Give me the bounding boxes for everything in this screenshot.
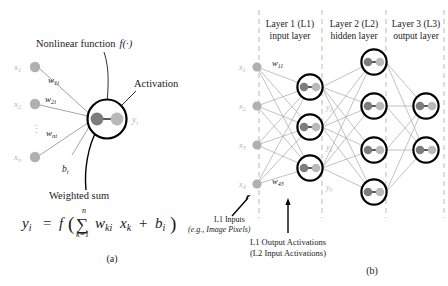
layer1-header-line1: Layer 1 (L1) — [266, 19, 315, 30]
input-label-xn: xn — [13, 152, 21, 163]
l1-neuron-1 — [297, 74, 322, 99]
input-label-x1: x1 — [13, 62, 21, 73]
input-node-b-x3 — [252, 140, 261, 149]
caption-panel-a: (a) — [106, 253, 117, 265]
input-node-x1 — [30, 62, 40, 72]
weighted-sum-leader-line — [85, 130, 97, 190]
weight-label-w11: w11 — [272, 58, 283, 69]
equation-paren-open: ( — [68, 213, 74, 235]
weighted-sum-label: Weighted sum — [49, 190, 109, 201]
l1-neuron-3 — [297, 155, 322, 180]
equation-sigma-lower: k=1 — [76, 230, 89, 239]
activation-dot — [111, 113, 124, 126]
bias-label: bi — [62, 164, 69, 175]
activation-label-y1: y1 — [325, 103, 333, 113]
panel-b: Layer 1 (L1) input layer Layer 2 (L2) hi… — [188, 10, 444, 277]
input-label-b-x3: x3 — [238, 140, 246, 151]
input-vertical-dots: ⋮ — [31, 123, 42, 135]
activation-label-y2: y2 — [325, 143, 333, 153]
input-layer-nodes — [252, 62, 261, 188]
l2-neuron-4 — [361, 179, 386, 204]
l2-neuron-1 — [361, 49, 386, 74]
layer1-header-line2: input layer — [270, 31, 312, 41]
weight-label-wni: wni — [46, 128, 57, 139]
input-label-b-x1: x1 — [238, 62, 246, 73]
weight-label-w2i: w2i — [45, 94, 56, 105]
neuron-equation: yi = f ( ∑ n k=1 wki xk + bi ) — [20, 206, 176, 239]
equation-f: f — [59, 215, 65, 231]
l1-neurons — [297, 74, 322, 180]
equation-weight-term: wki — [95, 215, 112, 233]
equation-sigma-upper: n — [82, 206, 86, 215]
input-node-xn — [30, 152, 40, 162]
activation-label-y3: y3 — [325, 183, 333, 193]
input-label-b-x2: x2 — [238, 101, 246, 112]
input-label-b-x4: x4 — [238, 179, 246, 190]
edges-l2-to-l3 — [386, 62, 424, 192]
l1-inputs-leader-line — [232, 198, 248, 216]
equation-paren-close: ) — [170, 213, 176, 235]
neural-network-figure: Nonlinear functionf(·) Activation x1 x2 … — [0, 0, 448, 286]
edge-x2-to-neuron — [40, 105, 92, 117]
annotation-l1-activations-line1: L1 Output Activations — [250, 237, 326, 247]
figure-container: Nonlinear functionf(·) Activation x1 x2 … — [0, 0, 448, 286]
activation-leader-line — [120, 91, 136, 107]
l1-neuron-2 — [297, 114, 322, 139]
layer3-header-line2: output layer — [393, 31, 439, 41]
edges-l1-to-l2 — [322, 62, 372, 192]
annotation-l1-inputs-line2: (e.g., Image Pixels) — [188, 225, 251, 234]
nonlinear-function-label: Nonlinear functionf(·) — [36, 38, 133, 50]
layer2-header-line1: Layer 2 (L2) — [330, 19, 379, 30]
annotation-l1-activations-line2: (L2 Input Activations) — [250, 248, 326, 258]
l3-neurons — [413, 93, 438, 162]
nonlinear-leader-line — [104, 52, 108, 104]
l3-neuron-1 — [413, 93, 438, 118]
summation-dot — [91, 113, 104, 126]
input-node-b-x4 — [252, 179, 261, 188]
activation-label: Activation — [134, 78, 179, 89]
input-node-b-x1 — [252, 62, 261, 71]
panel-a: Nonlinear functionf(·) Activation x1 x2 … — [13, 38, 179, 265]
equation-equals: = — [43, 215, 51, 231]
equation-input-term: xk — [119, 215, 132, 233]
equation-bias-term: bi — [155, 215, 166, 233]
equation-plus: + — [139, 215, 147, 231]
output-label-yi: yi — [131, 115, 138, 126]
input-node-b-x2 — [252, 101, 261, 110]
input-label-x2: x2 — [13, 99, 22, 110]
l1-inputs-arrow-head — [245, 195, 251, 200]
l1-activations-arrow-head — [285, 198, 290, 205]
caption-panel-b: (b) — [366, 265, 378, 277]
l2-neuron-2 — [361, 93, 386, 118]
l2-neuron-3 — [361, 137, 386, 162]
equation-lhs: yi — [20, 215, 32, 233]
layer2-header-line2: hidden layer — [330, 31, 378, 41]
l3-neuron-2 — [413, 137, 438, 162]
layer3-header-line1: Layer 3 (L3) — [392, 19, 441, 30]
annotation-l1-inputs-line1: L1 Inputs — [214, 215, 245, 224]
l2-neurons — [361, 49, 386, 204]
weight-label-w1i: w1i — [48, 75, 59, 86]
input-node-x2 — [30, 99, 40, 109]
